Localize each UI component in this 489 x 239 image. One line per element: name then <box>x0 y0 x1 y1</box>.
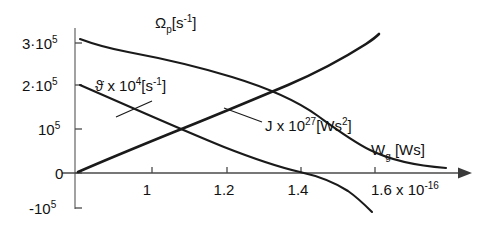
curve-label-j: J x 1027[Ws2] <box>265 116 352 134</box>
x-ticklabel-1: 1 <box>143 181 151 198</box>
curve-label-theta-dot: ϑ̇ x 104[s-1] <box>95 76 166 94</box>
x-ticklabel-1p6-with-scale: 1.6 x 10-16 <box>371 180 439 198</box>
y-ticklabel-0: 0 <box>55 165 63 182</box>
x-ticklabels: 1 1.2 1.4 1.6 x 10-16 <box>143 180 439 198</box>
x-axis-arrow-icon <box>458 168 472 179</box>
x-ticklabel-1p2: 1.2 <box>214 181 235 198</box>
x-tickmarks <box>152 167 375 173</box>
y-ticklabel-1e5: 105 <box>38 120 61 138</box>
scientific-plot: 3·105 2·105 105 0 -105 1 1.2 1.4 1.6 x 1… <box>0 0 489 239</box>
curve-label-omega-p: Ωp[s-1] <box>155 13 197 35</box>
y-ticklabel-3e5: 3·105 <box>22 34 58 52</box>
y-ticklabel-2e5: 2·105 <box>22 76 58 94</box>
y-ticklabels: 3·105 2·105 105 0 -105 <box>22 34 63 217</box>
x-ticklabel-1p4: 1.4 <box>288 181 309 198</box>
y-ticklabel-neg1e5: -105 <box>29 199 57 217</box>
x-axis-title: Wg [Ws] <box>371 141 425 162</box>
leader-line-j <box>224 108 262 122</box>
y-tickmarks <box>75 43 82 208</box>
